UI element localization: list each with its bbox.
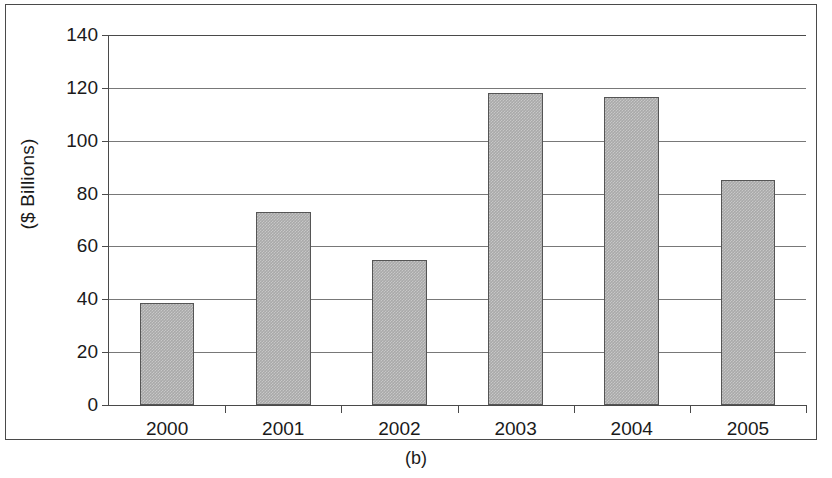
bar-2003	[488, 93, 543, 405]
bar-2004	[604, 97, 659, 405]
y-tick-60	[102, 246, 109, 247]
y-axis-title: ($ Billions)	[17, 84, 39, 284]
bar-2001	[256, 212, 311, 405]
y-tick-label: 0	[87, 394, 98, 416]
category-label-2002: 2002	[378, 418, 420, 440]
chart-frame: ($ Billions) 020406080100120140 20002001…	[5, 4, 817, 440]
y-tick-100	[102, 141, 109, 142]
bar-2005	[721, 180, 776, 405]
bar-2000	[140, 303, 195, 405]
y-axis-line	[108, 35, 109, 405]
y-tick-20	[102, 352, 109, 353]
y-tick-label: 120	[66, 77, 98, 99]
y-tick-label: 40	[77, 288, 98, 310]
category-tick	[225, 405, 226, 413]
gridline-20	[109, 352, 806, 353]
y-tick-label: 140	[66, 24, 98, 46]
category-label-2001: 2001	[262, 418, 304, 440]
plot-area: 020406080100120140 200020012002200320042…	[109, 35, 806, 405]
category-label-2004: 2004	[611, 418, 653, 440]
category-tick	[806, 405, 807, 413]
gridline-60	[109, 246, 806, 247]
category-tick	[341, 405, 342, 413]
category-label-2003: 2003	[494, 418, 536, 440]
category-tick	[458, 405, 459, 413]
gridline-140	[109, 35, 806, 36]
category-label-2005: 2005	[727, 418, 769, 440]
gridline-120	[109, 88, 806, 89]
y-tick-label: 20	[77, 341, 98, 363]
gridline-40	[109, 299, 806, 300]
category-tick	[574, 405, 575, 413]
figure-caption: (b)	[0, 448, 832, 469]
y-tick-80	[102, 194, 109, 195]
y-tick-label: 80	[77, 183, 98, 205]
y-tick-120	[102, 88, 109, 89]
y-tick-label: 100	[66, 130, 98, 152]
gridline-100	[109, 141, 806, 142]
y-tick-40	[102, 299, 109, 300]
category-label-2000: 2000	[146, 418, 188, 440]
bar-2002	[372, 260, 427, 405]
category-tick	[690, 405, 691, 413]
y-tick-label: 60	[77, 235, 98, 257]
y-tick-140	[102, 35, 109, 36]
y-tick-0	[102, 405, 109, 406]
gridline-80	[109, 194, 806, 195]
figure-container: ($ Billions) 020406080100120140 20002001…	[0, 0, 832, 478]
